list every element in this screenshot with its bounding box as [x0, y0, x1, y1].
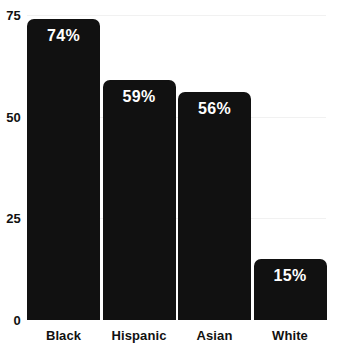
bar-value-label: 15% [254, 268, 327, 284]
bar-value-label: 59% [103, 89, 176, 105]
bar-value-label: 74% [27, 28, 100, 44]
bar-chart: 75 50 25 0 74% 59% 56% 15% [0, 0, 340, 362]
bar-group-black[interactable]: 74% [27, 15, 100, 320]
bar-group-white[interactable]: 15% [254, 15, 327, 320]
x-tick-label-white: White [254, 328, 327, 343]
x-tick-label-asian: Asian [178, 328, 251, 343]
x-tick-label-black: Black [27, 328, 100, 343]
y-tick-label: 75 [6, 8, 21, 23]
bar-white[interactable]: 15% [254, 259, 327, 320]
x-tick-label-hispanic: Hispanic [103, 328, 176, 343]
y-axis: 75 50 25 0 [0, 15, 21, 320]
bar-asian[interactable]: 56% [178, 92, 251, 320]
y-tick-label: 0 [14, 313, 21, 328]
bar-group-hispanic[interactable]: 59% [103, 15, 176, 320]
bar-group-asian[interactable]: 56% [178, 15, 251, 320]
y-tick-label: 25 [6, 211, 21, 226]
bar-hispanic[interactable]: 59% [103, 80, 176, 320]
plot-area: 74% 59% 56% 15% [27, 15, 326, 320]
bar-black[interactable]: 74% [27, 19, 100, 320]
x-axis: Black Hispanic Asian White [27, 322, 326, 346]
y-tick-label: 50 [6, 109, 21, 124]
bar-value-label: 56% [178, 101, 251, 117]
